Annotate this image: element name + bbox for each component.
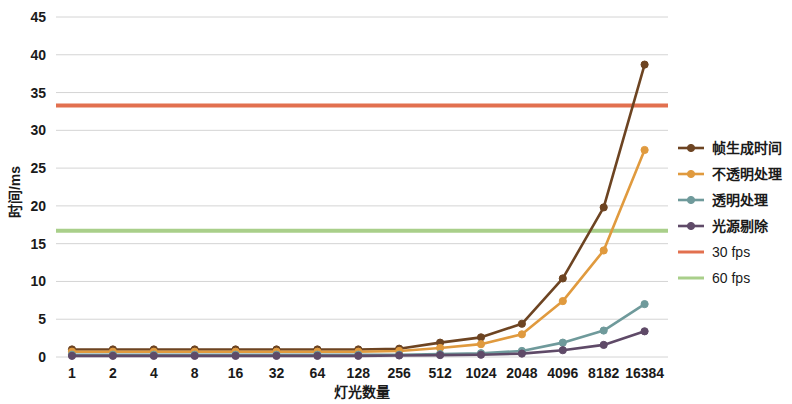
line-chart: 051015202530354045 124816326412825651210… [0,0,792,404]
x-axis-tick-label: 16 [228,365,244,381]
y-axis-tick-label: 25 [30,160,46,176]
data-point-marker [559,297,566,304]
y-axis-tick-label: 5 [38,311,46,327]
y-axis-tick-label: 40 [30,47,46,63]
x-axis-tick-label: 16384 [625,365,664,381]
legend-label: 不透明处理 [712,166,782,182]
data-point-marker [518,331,525,338]
x-axis-tick-label: 2 [109,365,117,381]
legend-label: 60 fps [712,270,750,286]
data-point-marker [396,352,403,359]
data-point-marker [600,341,607,348]
y-axis-tick-label: 45 [30,9,46,25]
data-point-marker [600,327,607,334]
data-point-marker [477,351,484,358]
data-point-marker [477,341,484,348]
chart-canvas: 051015202530354045 124816326412825651210… [0,0,792,404]
x-axis-tick-label: 4 [150,365,158,381]
x-axis-tick-label: 2048 [506,365,537,381]
data-point-marker [600,204,607,211]
data-point-marker [518,350,525,357]
data-point-marker [273,352,280,359]
x-axis-tick-label: 1 [68,365,76,381]
data-point-marker [355,352,362,359]
legend-swatch-marker [687,144,694,151]
data-point-marker [109,352,116,359]
legend-label: 透明处理 [712,192,768,208]
data-point-marker [559,339,566,346]
y-axis-tick-label: 20 [30,198,46,214]
data-point-marker [68,352,75,359]
x-axis-tick-label: 64 [310,365,326,381]
data-point-marker [600,247,607,254]
data-point-marker [518,320,525,327]
y-axis-tick-label: 10 [30,273,46,289]
data-point-marker [477,334,484,341]
legend-swatch-marker [687,196,694,203]
data-point-marker [191,352,198,359]
y-axis-title: 时间/ms [7,166,23,218]
data-point-marker [641,328,648,335]
x-axis-tick-label: 8182 [588,365,619,381]
data-point-marker [150,352,157,359]
x-axis-tick-label: 32 [269,365,285,381]
x-axis-tick-labels: 1248163264128256512102420484096818216384 [68,365,664,381]
x-axis-tick-label: 8 [191,365,199,381]
data-point-marker [559,347,566,354]
data-point-marker [641,301,648,308]
data-point-marker [641,146,648,153]
x-axis-tick-label: 256 [388,365,412,381]
data-point-marker [232,352,239,359]
y-axis-tick-label: 35 [30,85,46,101]
y-axis-tick-label: 30 [30,122,46,138]
legend-swatch-marker [687,170,694,177]
y-axis-tick-label: 15 [30,236,46,252]
legend-swatch-marker [687,222,694,229]
chart-background [0,0,792,404]
x-axis-tick-label: 128 [347,365,371,381]
data-point-marker [314,352,321,359]
x-axis-title: 灯光数量 [334,384,390,400]
data-point-marker [437,352,444,359]
data-point-marker [641,61,648,68]
y-axis-tick-label: 0 [38,349,46,365]
x-axis-tick-label: 4096 [547,365,578,381]
legend-label: 帧生成时间 [712,140,782,156]
legend-label: 30 fps [712,244,750,260]
legend-label: 光源剔除 [711,218,769,234]
data-point-marker [559,275,566,282]
x-axis-tick-label: 1024 [465,365,496,381]
x-axis-tick-label: 512 [428,365,452,381]
